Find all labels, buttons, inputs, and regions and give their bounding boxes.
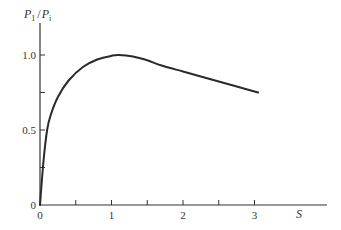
y-axis-label: P1/Pi [23, 7, 52, 23]
tick-labels: 012300.51.0 [22, 49, 258, 221]
y-tick-label: 1.0 [22, 49, 36, 61]
y-label-den-sub: i [49, 14, 52, 23]
axes [40, 23, 327, 205]
y-label-num-sub: 1 [31, 14, 35, 23]
x-axis-label: S [296, 207, 302, 221]
y-tick-label: 0.5 [22, 124, 36, 136]
y-tick-label: 0 [31, 199, 37, 211]
x-tick-label: 2 [180, 209, 186, 221]
x-tick-label: 0 [37, 209, 43, 221]
x-tick-label: 3 [252, 209, 258, 221]
x-tick-label: 1 [109, 209, 115, 221]
line-chart: 012300.51.0 S P1/Pi [0, 0, 341, 230]
data-line [40, 55, 258, 205]
